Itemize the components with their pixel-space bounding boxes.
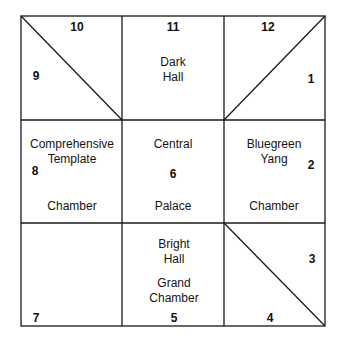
- number-4: 4: [267, 311, 274, 325]
- label-central: Central: [154, 137, 193, 151]
- number-2: 2: [308, 158, 315, 172]
- label-chamber-right: Chamber: [249, 199, 298, 213]
- label-hall-top: Hall: [163, 70, 184, 84]
- number-6: 6: [170, 167, 177, 181]
- label-dark: Dark: [160, 55, 185, 69]
- number-12: 12: [261, 20, 274, 34]
- number-1: 1: [308, 72, 315, 86]
- number-7: 7: [33, 311, 40, 325]
- number-10: 10: [70, 20, 83, 34]
- label-template: Template: [48, 152, 97, 166]
- label-chamber-left: Chamber: [47, 199, 96, 213]
- number-3: 3: [309, 252, 316, 266]
- label-chamber-bottom: Chamber: [149, 291, 198, 305]
- label-grand: Grand: [157, 276, 190, 290]
- number-11: 11: [167, 20, 180, 34]
- number-9: 9: [33, 69, 40, 83]
- label-bright: Bright: [158, 237, 189, 251]
- label-yang: Yang: [260, 152, 287, 166]
- label-bluegreen: Bluegreen: [247, 137, 302, 151]
- label-palace: Palace: [155, 199, 192, 213]
- number-8: 8: [32, 164, 39, 178]
- diagonal-bottom-right: [224, 223, 325, 326]
- number-5: 5: [171, 311, 178, 325]
- label-comprehensive: Comprehensive: [30, 137, 114, 151]
- label-hall-bottom: Hall: [164, 252, 185, 266]
